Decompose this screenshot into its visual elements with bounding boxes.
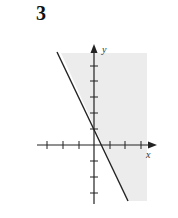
y-axis-arrow-icon (91, 44, 98, 53)
x-axis-arrow-icon (148, 142, 157, 149)
graph: y x (0, 0, 178, 218)
x-axis-label: x (145, 149, 151, 160)
y-axis-label: y (101, 44, 107, 55)
shaded-region (61, 53, 147, 201)
